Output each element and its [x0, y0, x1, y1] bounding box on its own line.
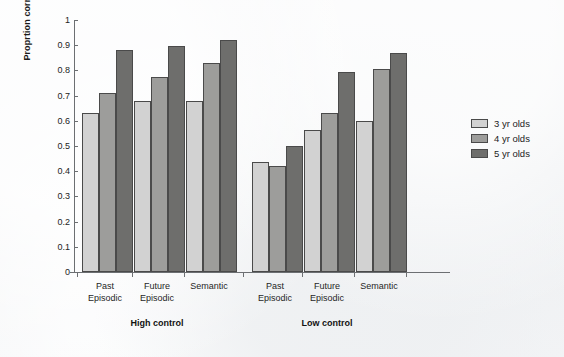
- bar: [321, 113, 338, 272]
- panel-label: Low control: [302, 318, 353, 328]
- x-tick-mark: [132, 272, 133, 277]
- bar: [203, 63, 220, 272]
- legend-swatch: [471, 149, 488, 158]
- bar: [99, 93, 116, 272]
- panel-label: High control: [131, 318, 184, 328]
- legend-label: 4 yr olds: [494, 133, 530, 144]
- bar: [220, 40, 237, 272]
- bar: [304, 130, 321, 272]
- y-tick-label: 0.3: [0, 191, 74, 201]
- legend-label: 3 yr olds: [494, 118, 530, 129]
- x-tick-mark: [354, 272, 355, 277]
- bar: [134, 101, 151, 272]
- y-tick-label: 1: [0, 15, 74, 25]
- bar: [186, 101, 203, 272]
- x-tick-mark: [184, 272, 185, 277]
- bar: [338, 72, 355, 272]
- x-category-label-line: Past: [88, 281, 122, 293]
- bar-group: [185, 20, 237, 272]
- x-category-label-line: Future: [140, 281, 174, 293]
- x-tick-mark: [243, 272, 244, 277]
- legend-label: 5 yr olds: [494, 148, 530, 159]
- y-tick-label: 0: [0, 267, 74, 277]
- x-category-label: Semantic: [190, 281, 228, 293]
- x-axis-line: [70, 272, 450, 273]
- x-category-label-line: Episodic: [88, 293, 122, 305]
- legend: 3 yr olds4 yr olds5 yr olds: [471, 116, 530, 161]
- y-tick-label: 0.6: [0, 116, 74, 126]
- bar: [82, 113, 99, 272]
- x-tick-mark: [406, 272, 407, 277]
- y-tick-label: 0.4: [0, 166, 74, 176]
- x-category-label-line: Episodic: [258, 293, 292, 305]
- plot-area: [75, 20, 448, 272]
- x-category-label-line: Episodic: [140, 293, 174, 305]
- x-category-label: PastEpisodic: [258, 281, 292, 304]
- x-category-label-line: Past: [258, 281, 292, 293]
- y-tick-label: 0.2: [0, 217, 74, 227]
- bar: [151, 77, 168, 272]
- bar: [116, 50, 133, 272]
- bar: [252, 162, 269, 272]
- y-tick-label: 0.9: [0, 40, 74, 50]
- bar: [286, 146, 303, 272]
- bar: [373, 69, 390, 272]
- legend-swatch: [471, 134, 488, 143]
- y-tick-label: 0.8: [0, 65, 74, 75]
- y-tick-label: 0.7: [0, 91, 74, 101]
- x-tick-mark: [302, 272, 303, 277]
- legend-item: 3 yr olds: [471, 116, 530, 130]
- y-tick-label: 0.5: [0, 141, 74, 151]
- bar: [356, 121, 373, 272]
- legend-item: 4 yr olds: [471, 131, 530, 145]
- bar: [390, 53, 407, 272]
- x-category-label-line: Episodic: [310, 293, 344, 305]
- x-category-label: FutureEpisodic: [310, 281, 344, 304]
- bar: [168, 46, 185, 272]
- bar-group: [355, 20, 407, 272]
- x-tick-mark: [77, 272, 78, 277]
- x-category-label-line: Semantic: [360, 281, 398, 293]
- x-category-label: FutureEpisodic: [140, 281, 174, 304]
- legend-swatch: [471, 119, 488, 128]
- bar-group: [303, 20, 355, 272]
- bar-chart: Proprtion correct 10.90.80.70.60.50.40.3…: [0, 0, 564, 357]
- legend-item: 5 yr olds: [471, 146, 530, 160]
- x-category-label: PastEpisodic: [88, 281, 122, 304]
- y-tick-label: 0.1: [0, 242, 74, 252]
- bar-group: [251, 20, 303, 272]
- bar-group: [81, 20, 133, 272]
- bar: [269, 166, 286, 272]
- bar-group: [133, 20, 185, 272]
- x-category-label-line: Future: [310, 281, 344, 293]
- x-category-label-line: Semantic: [190, 281, 228, 293]
- x-category-label: Semantic: [360, 281, 398, 293]
